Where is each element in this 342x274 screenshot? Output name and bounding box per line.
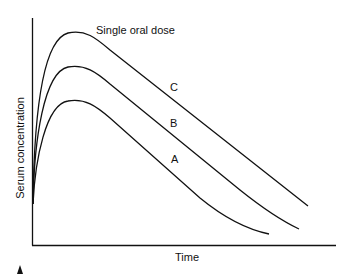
- triangle-marker-icon: [17, 265, 23, 274]
- chart-canvas: Single oral dose C B A Time Serum concen…: [0, 0, 342, 274]
- curve-a: [33, 100, 269, 234]
- x-axis-label: Time: [175, 251, 199, 263]
- curve-label-c: C: [170, 81, 178, 93]
- curve-label-a: A: [171, 153, 179, 165]
- chart-title: Single oral dose: [96, 24, 175, 36]
- curve-b: [33, 66, 299, 229]
- curve-label-b: B: [170, 117, 177, 129]
- y-axis-label: Serum concentration: [14, 97, 26, 199]
